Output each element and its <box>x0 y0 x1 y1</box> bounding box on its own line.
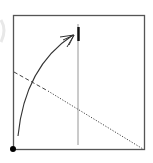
origin-dot <box>10 146 16 152</box>
diagonal-dotted-segment <box>48 91 143 149</box>
ghost-arc <box>1 20 4 42</box>
diagonal-dashed-segment <box>14 72 48 91</box>
curved-arrow <box>18 35 73 136</box>
diagram-canvas <box>0 0 153 163</box>
arrowhead-icon <box>60 35 74 47</box>
